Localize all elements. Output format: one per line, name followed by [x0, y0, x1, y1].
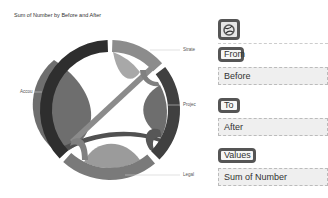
divider [218, 43, 328, 44]
to-header: To [218, 98, 240, 113]
field-wells-panel: From Before To After Values Sum of Numbe… [214, 14, 328, 198]
label-legal: Legal [183, 172, 194, 177]
chord-chart[interactable]: Strate Projec Legal Accou [0, 30, 210, 198]
values-header: Values [218, 148, 256, 163]
chart-title: Sum of Number by Before and After [14, 12, 101, 18]
label-accou: Accou [20, 89, 33, 94]
label-projec: Projec [183, 102, 196, 107]
label-strate: Strate [183, 47, 195, 52]
chord-chart-icon [223, 24, 235, 36]
visual-type-button[interactable] [218, 19, 240, 40]
from-well[interactable]: Before [218, 67, 328, 85]
from-header: From [218, 47, 244, 62]
chord-diagram [0, 30, 210, 198]
to-well[interactable]: After [218, 118, 328, 136]
values-well[interactable]: Sum of Number [218, 168, 328, 186]
